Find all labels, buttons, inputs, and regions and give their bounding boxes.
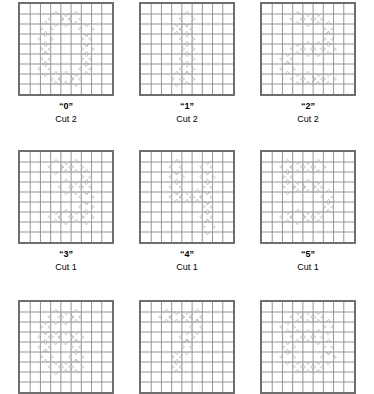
puzzle-piece-outline-2: [262, 4, 354, 94]
puzzle-piece-outline-0: [20, 4, 112, 94]
pattern-cell-2: “2”Cut 2: [249, 2, 367, 125]
pattern-grid-2: [260, 2, 356, 96]
pattern-label-0: “0”: [7, 101, 125, 112]
pattern-cell-4: “4”Cut 1: [128, 150, 246, 273]
pattern-cut-5: Cut 1: [249, 261, 367, 273]
pattern-caption-5: “5”Cut 1: [249, 249, 367, 273]
pattern-cut-0: Cut 2: [7, 113, 125, 125]
pattern-grid-3: [18, 150, 114, 244]
pattern-cell-5: “5”Cut 1: [249, 150, 367, 273]
pattern-grid-1: [139, 2, 235, 96]
pattern-label-5: “5”: [249, 249, 367, 260]
pattern-cut-2: Cut 2: [249, 113, 367, 125]
puzzle-piece-outline-6: [20, 302, 112, 392]
pattern-label-2: “2”: [249, 101, 367, 112]
pattern-cut-1: Cut 2: [128, 113, 246, 125]
pattern-caption-3: “3”Cut 1: [7, 249, 125, 273]
pattern-caption-2: “2”Cut 2: [249, 101, 367, 125]
pattern-caption-0: “0”Cut 2: [7, 101, 125, 125]
pattern-caption-4: “4”Cut 1: [128, 249, 246, 273]
pattern-grid-7: [139, 300, 235, 394]
pattern-cell-0: “0”Cut 2: [7, 2, 125, 125]
puzzle-piece-outline-3: [20, 152, 112, 242]
puzzle-piece-outline-8: [262, 302, 354, 392]
puzzle-piece-outline-5: [262, 152, 354, 242]
pattern-label-1: “1”: [128, 101, 246, 112]
pattern-label-4: “4”: [128, 249, 246, 260]
pattern-cell-3: “3”Cut 1: [7, 150, 125, 273]
pattern-cell-1: “1”Cut 2: [128, 2, 246, 125]
pattern-grid-5: [260, 150, 356, 244]
pattern-caption-1: “1”Cut 2: [128, 101, 246, 125]
pattern-label-3: “3”: [7, 249, 125, 260]
pattern-grid-0: [18, 2, 114, 96]
pattern-cell-8: [249, 300, 367, 394]
pattern-grid-6: [18, 300, 114, 394]
pattern-cut-4: Cut 1: [128, 261, 246, 273]
puzzle-piece-outline-7: [141, 302, 233, 392]
pattern-cell-6: [7, 300, 125, 394]
pattern-grid-8: [260, 300, 356, 394]
pattern-cell-7: [128, 300, 246, 394]
pattern-grid-4: [139, 150, 235, 244]
puzzle-piece-outline-1: [141, 4, 233, 94]
pattern-cut-3: Cut 1: [7, 261, 125, 273]
puzzle-piece-outline-4: [141, 152, 233, 242]
